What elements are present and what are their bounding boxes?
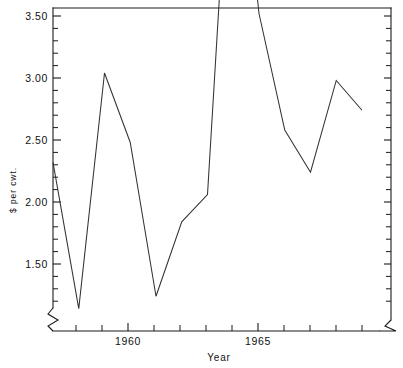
x-tick-label-1960: 1960	[115, 335, 141, 347]
line-chart: 3.50 3.00 2.50 2.00 1.50 1960 1965 $ per…	[0, 0, 403, 368]
y-tick-label-3-00: 3.00	[25, 72, 48, 84]
y-axis-title: $ per cwt.	[8, 167, 18, 213]
y-tick-label-1-50: 1.50	[25, 258, 48, 270]
x-axis-title: Year	[207, 352, 230, 363]
y-tick-label-3-50: 3.50	[25, 10, 48, 22]
x-tick-label-1965: 1965	[245, 335, 271, 347]
y-tick-label-2-00: 2.00	[25, 196, 48, 208]
chart-background	[0, 0, 403, 368]
y-tick-label-2-50: 2.50	[25, 134, 48, 146]
